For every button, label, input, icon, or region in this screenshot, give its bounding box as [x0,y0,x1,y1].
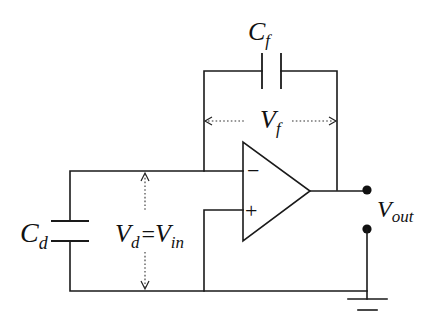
vd-vin-label: Vd=Vin [115,219,184,252]
feedback-capacitor [262,53,281,89]
non-inverting-input-symbol: + [245,198,257,223]
inverting-input-symbol: − [247,158,259,183]
non-inverting-input-wire [204,210,243,291]
op-amp-triangle [243,142,310,241]
ground-rail-wire [70,241,367,291]
circuit-diagram: Cf Vf − + Cd [0,0,434,331]
cd-label: Cd [20,217,49,253]
output-terminals [310,185,372,299]
op-amp: − + [243,142,310,241]
arrowhead-up-icon [141,173,149,181]
arrowhead-down-icon [141,281,149,289]
detector-capacitor [51,221,89,241]
inverting-input-wire [70,171,243,221]
cf-label: Cf [248,17,272,50]
output-terminal-top [362,185,371,194]
ground-icon [348,299,387,310]
vf-label: Vf [260,105,283,138]
vout-label: Vout [377,196,415,226]
feedback-wire-right [281,71,337,190]
schematic-svg: Cf Vf − + Cd [0,0,434,331]
